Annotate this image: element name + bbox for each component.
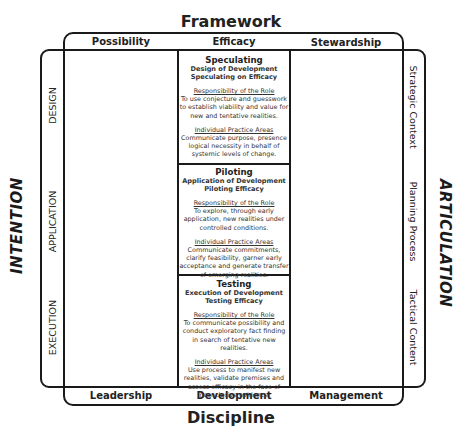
- row-label-tactical-content: Tactical Content: [408, 288, 419, 368]
- role-text: To explore, through early application, n…: [179, 207, 289, 232]
- cell-title: Testing: [179, 279, 289, 289]
- cell-testing: Testing Execution of Development Testing…: [179, 279, 289, 399]
- practice-heading: Individual Practice Areas: [179, 358, 289, 366]
- cell-subtitle: Execution of Development: [179, 289, 289, 297]
- cell-subtitle: Speculating on Efficacy: [179, 73, 289, 81]
- practice-heading: Individual Practice Areas: [179, 238, 289, 246]
- intention-title: INTENTION: [8, 184, 26, 274]
- row-label-design: DESIGN: [47, 66, 58, 146]
- role-text: To use conjecture and guesswork to estab…: [179, 95, 289, 120]
- column-divider: [289, 49, 291, 388]
- row-divider: [177, 163, 291, 165]
- cell-subtitle: Design of Development: [179, 65, 289, 73]
- practice-heading: Individual Practice Areas: [179, 126, 289, 134]
- row-label-strategic-context: Strategic Context: [408, 66, 419, 146]
- cell-subtitle: Application of Development: [179, 177, 289, 185]
- row-label-execution: EXECUTION: [47, 288, 58, 368]
- role-heading: Responsibility of the Role: [179, 311, 289, 319]
- practice-text: Communicate commitments, clarify feasibi…: [179, 246, 289, 279]
- column-label-possibility: Possibility: [65, 36, 177, 47]
- row-label-planning-process: Planning Process: [408, 182, 419, 262]
- framework-title: Framework: [0, 12, 462, 31]
- column-label-management: Management: [290, 390, 402, 401]
- column-label-leadership: Leadership: [65, 390, 177, 401]
- discipline-title: Discipline: [0, 408, 462, 427]
- cell-subtitle: Testing Efficacy: [179, 297, 289, 305]
- role-heading: Responsibility of the Role: [179, 87, 289, 95]
- articulation-title: ARTICULATION: [436, 179, 454, 279]
- practice-text: Use process to manifest new realities, v…: [179, 366, 289, 399]
- column-label-stewardship: Stewardship: [290, 37, 402, 48]
- role-heading: Responsibility of the Role: [179, 199, 289, 207]
- cell-piloting: Piloting Application of Development Pilo…: [179, 167, 289, 279]
- cell-subtitle: Piloting Efficacy: [179, 185, 289, 193]
- column-label-efficacy: Efficacy: [178, 36, 290, 47]
- role-text: To communicate possibility and conduct e…: [179, 319, 289, 352]
- cell-title: Speculating: [179, 55, 289, 65]
- row-label-application: APPLICATION: [47, 182, 58, 262]
- practice-text: Communicate purpose, presence logical ne…: [179, 134, 289, 159]
- cell-title: Piloting: [179, 167, 289, 177]
- cell-speculating: Speculating Design of Development Specul…: [179, 55, 289, 159]
